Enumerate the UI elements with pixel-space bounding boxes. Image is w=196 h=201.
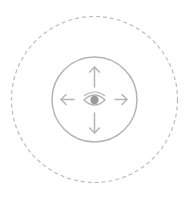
arrow-right-icon[interactable] [115, 95, 127, 105]
arrow-up-icon[interactable] [90, 67, 100, 87]
pan-view-control[interactable] [0, 0, 196, 201]
eye-icon[interactable] [84, 92, 105, 105]
arrow-down-icon[interactable] [90, 113, 100, 133]
pan-control-graphic [0, 0, 196, 201]
arrow-left-icon[interactable] [61, 95, 74, 105]
